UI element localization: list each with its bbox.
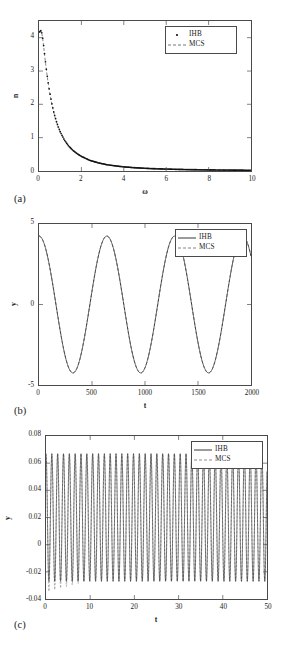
ytick-a-1: 1 — [25, 135, 34, 142]
legend-entry-ihb: IHB — [194, 446, 259, 454]
legend-c: IHB MCS — [191, 441, 263, 469]
xtick-a-1: 2 — [79, 176, 83, 183]
ytick-c-3: 0.02 — [14, 514, 41, 521]
ytick-c-4: 0.04 — [14, 486, 41, 493]
ytick-c-2: 0 — [14, 541, 41, 548]
xtick-a-3: 6 — [165, 176, 169, 183]
legend-label-ihb: IHB — [189, 31, 202, 38]
legend-entry-ihb: IHB — [168, 31, 233, 39]
yaxis-title-c: y — [4, 516, 12, 520]
xtick-c-3: 30 — [175, 604, 182, 611]
xtick-c-4: 40 — [220, 604, 227, 611]
xtick-b-0: 0 — [36, 390, 40, 397]
yaxis-title-a: n — [12, 94, 20, 98]
figure-container: IHB MCS 0 1 2 3 4 0 2 4 6 8 10 — [0, 0, 283, 651]
legend-marker-dot-icon — [168, 31, 186, 39]
legend-b: IHB MCS — [175, 229, 247, 257]
panel-a: IHB MCS 0 1 2 3 4 0 2 4 6 8 10 — [0, 0, 283, 210]
ytick-b-1: 0 — [20, 301, 34, 308]
plot-area-a: IHB MCS — [38, 20, 252, 172]
xtick-c-1: 10 — [86, 604, 93, 611]
legend-label-mcs: MCS — [215, 456, 231, 463]
ytick-c-6: 0.08 — [14, 431, 41, 438]
ytick-c-5: 0.06 — [14, 459, 41, 466]
legend-label-ihb: IHB — [199, 234, 212, 241]
ytick-a-2: 2 — [25, 101, 34, 108]
xtick-b-3: 1500 — [191, 390, 205, 397]
legend-label-mcs: MCS — [199, 244, 215, 251]
legend-entry-mcs: MCS — [194, 456, 259, 464]
xaxis-title-b: t — [144, 402, 147, 410]
legend-line-solid-icon — [194, 446, 212, 454]
xtick-a-2: 4 — [122, 176, 126, 183]
legend-label-mcs: MCS — [189, 41, 205, 48]
legend-entry-mcs: MCS — [178, 244, 243, 252]
ytick-a-3: 3 — [25, 67, 34, 74]
xtick-b-1: 500 — [86, 390, 97, 397]
ytick-a-0: 0 — [25, 168, 34, 175]
xtick-b-4: 2000 — [245, 390, 259, 397]
xtick-c-2: 20 — [131, 604, 138, 611]
xtick-a-5: 10 — [248, 176, 255, 183]
legend-entry-mcs: MCS — [168, 41, 233, 49]
xtick-a-0: 0 — [36, 176, 40, 183]
xtick-b-2: 1000 — [138, 390, 152, 397]
xaxis-title-a: ω — [142, 188, 148, 196]
panel-b: IHB MCS -5 0 5 0 500 1000 1500 2000 t y — [0, 210, 283, 420]
panel-label-b: (b) — [14, 406, 26, 417]
panel-c: IHB MCS 0.08 0.06 0.04 0.02 0 -0.02 -0.0… — [0, 420, 283, 651]
plot-area-c: IHB MCS — [45, 435, 268, 600]
legend-line-solid-icon — [178, 234, 196, 242]
ytick-c-0: -0.04 — [14, 596, 41, 603]
legend-a: IHB MCS — [165, 26, 237, 54]
xtick-c-0: 0 — [43, 604, 47, 611]
plot-area-b: IHB MCS — [38, 223, 252, 386]
legend-line-dashed-icon — [178, 244, 196, 252]
xtick-c-5: 50 — [264, 604, 271, 611]
yaxis-title-b: y — [10, 302, 18, 306]
ytick-c-1: -0.02 — [14, 569, 41, 576]
xtick-a-4: 8 — [207, 176, 211, 183]
ytick-b-0: -5 — [20, 382, 34, 389]
panel-label-a: (a) — [14, 194, 26, 205]
ytick-b-2: 5 — [20, 219, 34, 226]
legend-line-dashed-icon — [168, 41, 186, 49]
legend-entry-ihb: IHB — [178, 234, 243, 242]
panel-label-c: (c) — [14, 620, 26, 631]
xaxis-title-c: t — [155, 616, 158, 624]
legend-line-dashed-icon — [194, 456, 212, 464]
ytick-a-4: 4 — [25, 33, 34, 40]
legend-label-ihb: IHB — [215, 446, 228, 453]
